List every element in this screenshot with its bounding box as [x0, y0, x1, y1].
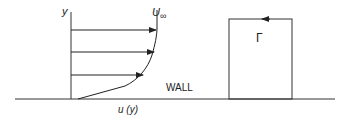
wall-label: WALL: [166, 82, 193, 93]
velocity-profile-curve: [78, 10, 157, 99]
y-axis-label: y: [61, 5, 69, 17]
circulation-label: Γ: [256, 31, 263, 45]
profile-label: u (y): [118, 104, 138, 115]
boundary-layer-diagram: y U∞ WALL u (y) Γ: [0, 0, 347, 123]
freestream-label: U∞: [152, 6, 166, 21]
